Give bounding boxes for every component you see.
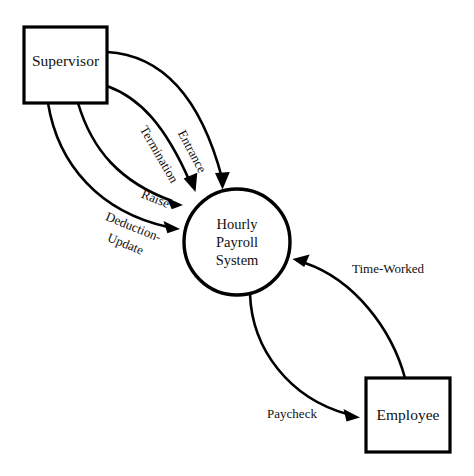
hourly-payroll-system-label-line3: System [216,252,259,268]
flow-termination-arrowhead [184,173,198,192]
flow-time-worked-path [305,263,405,378]
flow-paycheck: Paycheck [250,294,360,421]
node-hourly-payroll-system[interactable]: Hourly Payroll System [184,189,290,295]
data-flow-diagram: Entrance Termination Raise Deduction- Up… [0,0,474,476]
flow-paycheck-path [250,294,347,414]
hourly-payroll-system-label-line1: Hourly [216,216,258,232]
diagram-canvas: Entrance Termination Raise Deduction- Up… [0,0,474,476]
flow-paycheck-label: Paycheck [267,406,317,421]
flow-termination-label: Termination [137,123,182,186]
node-employee[interactable]: Employee [366,378,450,452]
flow-entrance-label: Entrance [175,127,210,175]
flow-raise-label: Raise [139,186,172,211]
node-supervisor[interactable]: Supervisor [24,27,107,103]
flow-time-worked-label: Time-Worked [352,261,425,276]
supervisor-label: Supervisor [32,52,100,69]
employee-label: Employee [377,406,440,423]
flow-entrance-arrowhead [215,172,230,190]
flow-deduction-update-path [48,103,168,227]
flow-deduction-update-arrowhead [164,221,181,233]
flow-paycheck-arrowhead [344,409,361,421]
flow-time-worked: Time-Worked [293,255,425,379]
hourly-payroll-system-label-line2: Payroll [216,234,258,250]
flow-time-worked-arrowhead [293,255,310,268]
